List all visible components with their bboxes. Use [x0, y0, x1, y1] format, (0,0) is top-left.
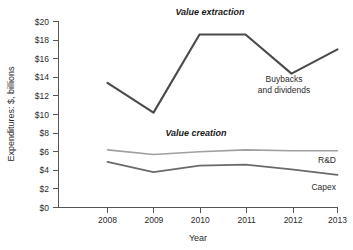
chart-container: $20 $18 $16 $14 $12 $10 $8 $6 $4 $2 $0 2…	[0, 0, 353, 250]
line-chart: $20 $18 $16 $14 $12 $10 $8 $6 $4 $2 $0 2…	[0, 0, 353, 250]
series-label-buybacks-line1: Buybacks	[266, 74, 303, 84]
y-tick-label: $16	[35, 54, 49, 64]
x-tick-label: 2012	[284, 215, 303, 225]
series-lines	[108, 35, 338, 175]
x-axis-title: Year	[189, 233, 207, 243]
y-tick-label: $2	[40, 184, 50, 194]
x-axis-tick-labels: 2008 2009 2010 2011 2012 2013	[98, 215, 347, 225]
y-tick-label: $12	[35, 91, 49, 101]
y-tick-label: $8	[40, 128, 50, 138]
x-tick-label: 2011	[238, 215, 257, 225]
y-axis-tick-labels: $20 $18 $16 $14 $12 $10 $8 $6 $4 $2 $0	[35, 17, 49, 213]
series-label-rnd: R&D	[318, 155, 336, 165]
x-tick-label: 2013	[328, 215, 347, 225]
y-tick-label: $0	[40, 203, 50, 213]
y-tick-label: $20	[35, 17, 49, 27]
y-tick-label: $14	[35, 72, 49, 82]
series-label-buybacks-line2: and dividends	[258, 85, 310, 95]
x-tick-label: 2008	[98, 215, 117, 225]
series-label-capex: Capex	[311, 182, 336, 192]
y-tick-label: $4	[40, 165, 50, 175]
y-axis-title: Expenditures: $, billions	[6, 66, 16, 162]
annotation-value-creation: Value creation	[165, 128, 227, 138]
x-tick-label: 2009	[144, 215, 163, 225]
series-line-capex	[108, 162, 338, 175]
series-line-rnd	[108, 150, 338, 155]
x-axis-ticks	[108, 208, 338, 214]
y-tick-label: $10	[35, 110, 49, 120]
series-line-buybacks-and-dividends	[108, 35, 338, 113]
y-axis-ticks	[53, 22, 59, 208]
y-tick-label: $6	[40, 147, 50, 157]
x-tick-label: 2010	[191, 215, 210, 225]
y-tick-label: $18	[35, 35, 49, 45]
annotation-value-extraction: Value extraction	[175, 7, 245, 17]
